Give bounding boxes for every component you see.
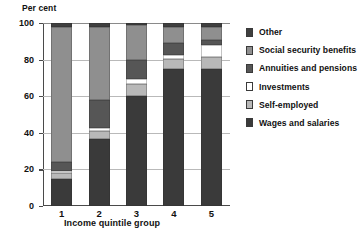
legend-item-label: Social security benefits: [259, 45, 356, 55]
bar-segment: [201, 57, 222, 69]
legend-item-label: Other: [259, 27, 282, 37]
legend-swatch-icon: [246, 64, 253, 73]
legend-swatch-icon: [246, 28, 253, 37]
bar-segment: [126, 25, 147, 61]
bar-segment: [89, 27, 110, 100]
bar-segment: [89, 23, 110, 27]
y-axis-tick-label: 40: [8, 128, 34, 138]
bar-segment: [163, 69, 184, 206]
bar-segment: [163, 43, 184, 55]
legend-item-label: Self-employed: [259, 100, 318, 110]
bar-segment: [163, 23, 184, 27]
stacked-bar-chart: Per cent 12345 Income quintile group Oth…: [0, 0, 363, 236]
legend-item[interactable]: Self-employed: [246, 100, 362, 110]
y-axis-title: Per cent: [22, 3, 56, 13]
bar-segment: [126, 60, 147, 79]
y-axis-tick-mark: [39, 206, 43, 207]
bar-segment: [163, 55, 184, 59]
y-axis-tick-label: 80: [8, 55, 34, 65]
bar-segment: [201, 23, 222, 27]
bar-segment: [51, 27, 72, 163]
bar-segment: [163, 27, 184, 43]
y-axis-tick-mark: [39, 169, 43, 170]
bar-segment: [51, 23, 72, 27]
legend-item-label: Investments: [259, 82, 310, 92]
bar-segment: [201, 40, 222, 45]
bar-segment: [126, 84, 147, 96]
plot-area: [43, 23, 230, 206]
bar-stack: [89, 23, 110, 206]
bar-segment: [51, 179, 72, 206]
legend-item[interactable]: Social security benefits: [246, 45, 362, 55]
bar-segment: [89, 131, 110, 139]
legend-swatch-icon: [246, 82, 253, 91]
bar-segment: [126, 23, 147, 25]
bar-segment: [89, 100, 110, 128]
legend-swatch-icon: [246, 118, 253, 127]
bar-segment: [51, 171, 72, 174]
bar-segment: [89, 139, 110, 206]
y-axis-tick-mark: [39, 96, 43, 97]
legend-swatch-icon: [246, 100, 253, 109]
y-axis-tick-label: 20: [8, 164, 34, 174]
bar-stack: [126, 23, 147, 206]
chart-legend: OtherSocial security benefitsAnnuities a…: [246, 27, 362, 136]
bar-segment: [126, 79, 147, 84]
y-axis-tick-mark: [39, 133, 43, 134]
x-axis-tick-label: 5: [201, 208, 222, 219]
legend-item-label: Annuities and pensions: [259, 63, 357, 73]
bar-stack: [51, 23, 72, 206]
legend-item-label: Wages and salaries: [259, 118, 339, 128]
legend-item[interactable]: Investments: [246, 82, 362, 92]
bar-segment: [126, 96, 147, 206]
bar-segment: [201, 27, 222, 40]
bar-segment: [89, 128, 110, 131]
bar-stack: [201, 23, 222, 206]
y-axis-tick-label: 100: [8, 18, 34, 28]
legend-swatch-icon: [246, 46, 253, 55]
bar-segment: [51, 173, 72, 178]
bar-segment: [163, 59, 184, 69]
y-axis-tick-label: 60: [8, 91, 34, 101]
y-axis-tick-mark: [39, 60, 43, 61]
x-axis-tick-label: 4: [163, 208, 184, 219]
bar-stack: [163, 23, 184, 206]
x-axis-title: Income quintile group: [64, 218, 160, 228]
y-axis-tick-label: 0: [8, 201, 34, 211]
legend-item[interactable]: Wages and salaries: [246, 118, 362, 128]
bar-segment: [201, 45, 222, 57]
legend-item[interactable]: Other: [246, 27, 362, 37]
legend-item[interactable]: Annuities and pensions: [246, 63, 362, 73]
y-axis-tick-mark: [39, 23, 43, 24]
bar-segment: [51, 162, 72, 170]
bar-segment: [201, 69, 222, 206]
